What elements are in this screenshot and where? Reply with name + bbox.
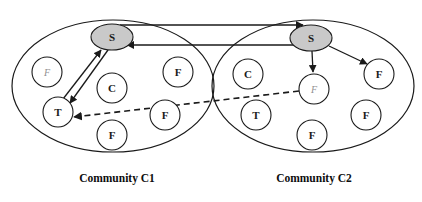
caption-community-c1: Community C1 [79, 172, 155, 185]
node-label: F [43, 67, 51, 78]
node-c1-f3[interactable]: F [97, 120, 127, 150]
node-c2-faint[interactable]: F [299, 74, 329, 104]
node-c1-c[interactable]: C [97, 73, 127, 103]
node-label: F [309, 129, 316, 141]
node-label: F [310, 84, 318, 95]
figure-canvas: F C F T F F S C [0, 0, 422, 202]
node-c1-hub-s[interactable]: S [91, 24, 133, 50]
edge-s2-to-faint-node [312, 51, 313, 72]
hub-label: S [308, 32, 314, 44]
node-label: F [363, 109, 370, 121]
node-c2-f1[interactable]: F [364, 59, 394, 89]
hub-label: S [109, 31, 115, 43]
edge-s2-to-f-node [329, 46, 367, 64]
node-c1-f2[interactable]: F [150, 100, 180, 130]
node-label: F [175, 66, 182, 78]
node-label: F [162, 109, 169, 121]
node-label: T [54, 106, 62, 118]
node-label: C [108, 82, 116, 94]
node-c2-c[interactable]: C [233, 59, 263, 89]
node-c1-t[interactable]: T [43, 97, 73, 127]
node-c2-hub-s[interactable]: S [290, 25, 332, 51]
caption-community-c2: Community C2 [276, 172, 352, 185]
node-label: F [109, 129, 116, 141]
node-label: T [252, 109, 260, 121]
node-c2-t[interactable]: T [241, 100, 271, 130]
community-graph-diagram: F C F T F F S C [0, 0, 422, 202]
node-c2-f2[interactable]: F [351, 100, 381, 130]
node-c2-f3[interactable]: F [297, 120, 327, 150]
node-label: C [244, 68, 252, 80]
node-label: F [376, 68, 383, 80]
edge-t-to-s-c1 [63, 50, 101, 99]
node-c1-f1[interactable]: F [163, 57, 193, 87]
node-c1-faint[interactable]: F [32, 57, 62, 87]
